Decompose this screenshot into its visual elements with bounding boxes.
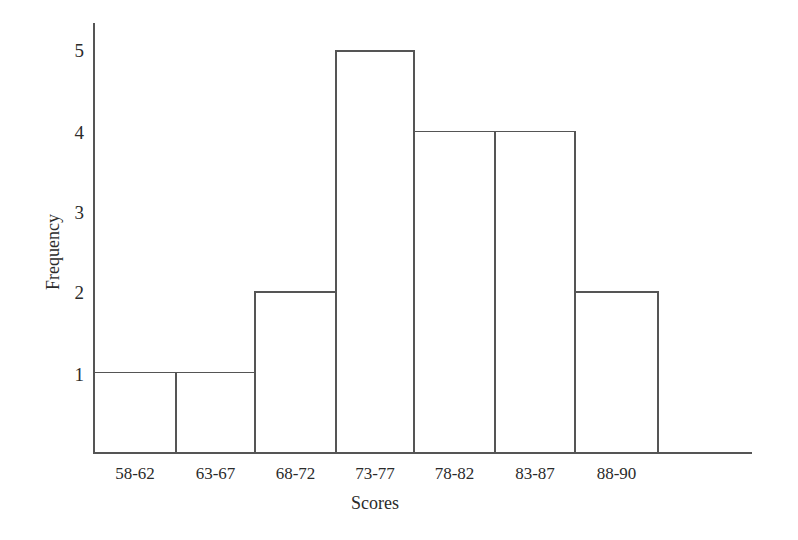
x-axis-category-label: 78-82 <box>410 465 500 482</box>
histogram-bar <box>255 292 336 453</box>
histogram-chart: 54321 58-6263-6768-7273-7778-8283-8788-9… <box>0 0 798 540</box>
y-axis-tick-label: 2 <box>60 283 84 302</box>
x-axis-category-label: 68-72 <box>251 465 341 482</box>
chart-canvas <box>0 0 798 540</box>
y-axis-tick-label: 3 <box>60 203 84 222</box>
y-axis-title: Frequency <box>44 205 62 299</box>
y-axis-tick-label: 1 <box>60 365 84 384</box>
histogram-bar <box>176 373 255 453</box>
x-axis-category-label: 83-87 <box>490 465 580 482</box>
y-axis-tick-label: 5 <box>60 41 84 60</box>
histogram-bar <box>575 292 658 453</box>
x-axis-category-label: 73-77 <box>330 465 420 482</box>
bars-group <box>94 51 658 453</box>
histogram-bar <box>336 51 414 453</box>
x-axis-category-label: 63-67 <box>171 465 261 482</box>
x-axis-title: Scores <box>285 494 465 512</box>
histogram-bar <box>495 131 575 453</box>
histogram-bar <box>414 131 495 453</box>
x-axis-category-label: 88-90 <box>572 465 662 482</box>
histogram-bar <box>94 373 176 453</box>
y-axis-tick-label: 4 <box>60 123 84 142</box>
x-axis-category-label: 58-62 <box>90 465 180 482</box>
